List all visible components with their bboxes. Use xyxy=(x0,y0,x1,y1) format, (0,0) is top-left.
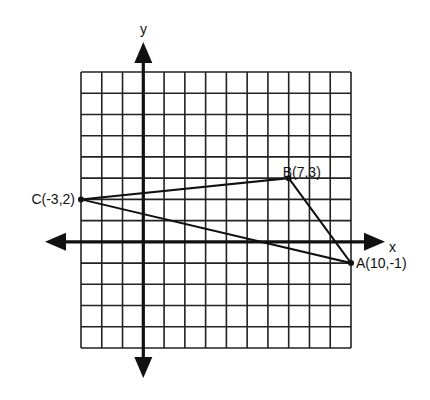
point-c xyxy=(78,196,84,202)
axes xyxy=(45,42,385,378)
point-label-b: B(7,3) xyxy=(283,164,321,180)
arrow-down-icon xyxy=(134,357,152,378)
point-a xyxy=(348,260,354,266)
x-axis-label: x xyxy=(389,239,396,255)
y-axis-label: y xyxy=(140,21,147,37)
arrow-left-icon xyxy=(45,233,66,251)
point-label-a: A(10,-1) xyxy=(356,255,407,271)
point-label-c: C(-3,2) xyxy=(31,191,75,207)
arrow-right-icon xyxy=(364,233,385,251)
coordinate-plane: A(10,-1)B(7,3)C(-3,2) x y xyxy=(0,0,430,400)
arrow-up-icon xyxy=(134,42,152,63)
grid xyxy=(81,72,351,348)
